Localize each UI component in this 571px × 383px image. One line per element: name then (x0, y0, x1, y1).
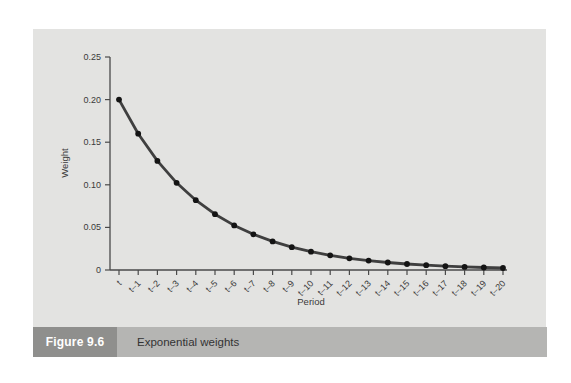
data-point (289, 244, 295, 250)
data-point (251, 231, 257, 237)
figure-number-label: Figure 9.6 (33, 327, 117, 357)
x-tick-label: t (115, 278, 124, 287)
x-tick-label: t–1 (127, 278, 143, 294)
x-tick-label: t–19 (469, 278, 488, 297)
y-axis-title: Weight (59, 148, 70, 178)
x-tick-label: t–5 (203, 278, 219, 294)
book-page: 00.050.100.150.200.25tt–1t–2t–3t–4t–5t–6… (0, 0, 571, 383)
x-tick-label: t–4 (184, 278, 200, 294)
data-point (270, 239, 276, 245)
y-tick-label: 0.15 (83, 137, 101, 147)
exponential-weights-chart: 00.050.100.150.200.25tt–1t–2t–3t–4t–5t–6… (33, 29, 546, 327)
x-tick-label: t–20 (488, 278, 507, 297)
data-point (135, 131, 141, 137)
data-point (443, 263, 449, 269)
data-point (212, 211, 218, 217)
data-point (327, 252, 333, 258)
x-tick-label: t–12 (334, 278, 353, 297)
x-tick-label: t–15 (392, 278, 411, 297)
y-tick-label: 0.25 (83, 52, 101, 62)
data-point (116, 97, 122, 103)
figure-panel: 00.050.100.150.200.25tt–1t–2t–3t–4t–5t–6… (33, 29, 546, 327)
figure-caption-bar: Figure 9.6 Exponential weights (33, 327, 547, 357)
data-point (385, 260, 391, 266)
x-tick-label: t–10 (296, 278, 315, 297)
y-tick-label: 0.05 (83, 222, 101, 232)
x-tick-label: t–11 (316, 278, 335, 297)
x-tick-label: t–16 (411, 278, 430, 297)
data-point (423, 262, 429, 268)
data-point (500, 265, 506, 271)
x-tick-label: t–6 (223, 278, 239, 294)
x-axis-title: Period (297, 296, 324, 307)
data-point (155, 158, 161, 164)
y-tick-label: 0 (96, 265, 101, 275)
data-point (462, 264, 468, 270)
y-tick-label: 0.20 (83, 95, 101, 105)
data-point (231, 223, 237, 229)
data-point (366, 258, 372, 264)
x-tick-label: t–3 (165, 278, 181, 294)
x-tick-label: t–17 (430, 278, 449, 297)
x-tick-label: t–18 (450, 278, 469, 297)
x-tick-label: t–9 (280, 278, 296, 294)
data-point (193, 197, 199, 203)
data-point (174, 180, 180, 186)
x-tick-label: t–13 (354, 278, 373, 297)
data-point (308, 249, 314, 255)
x-tick-label: t–2 (146, 278, 162, 294)
x-tick-label: t–7 (242, 278, 258, 294)
data-point (481, 265, 487, 271)
x-tick-label: t–8 (261, 278, 277, 294)
y-tick-label: 0.10 (83, 180, 101, 190)
x-tick-label: t–14 (373, 278, 392, 297)
data-point (347, 255, 353, 261)
figure-title: Exponential weights (117, 327, 239, 357)
data-point (404, 261, 410, 267)
